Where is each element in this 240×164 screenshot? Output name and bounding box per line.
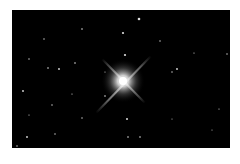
star-field-photo bbox=[12, 10, 230, 148]
bright-star bbox=[96, 56, 151, 113]
background-star bbox=[71, 93, 72, 94]
background-star bbox=[212, 130, 213, 131]
background-star bbox=[218, 108, 219, 109]
background-star bbox=[124, 54, 126, 56]
background-star bbox=[159, 40, 160, 41]
background-star bbox=[28, 114, 29, 115]
background-star bbox=[81, 117, 82, 118]
star-field-canvas bbox=[12, 10, 230, 148]
background-star bbox=[139, 136, 141, 138]
background-star bbox=[28, 58, 29, 59]
star-core bbox=[119, 77, 127, 85]
background-star bbox=[122, 32, 124, 34]
background-star bbox=[22, 90, 24, 92]
background-star bbox=[127, 136, 129, 138]
background-star bbox=[193, 52, 194, 53]
background-star bbox=[26, 136, 28, 138]
background-star bbox=[126, 118, 128, 120]
background-star bbox=[172, 119, 173, 120]
background-star bbox=[171, 71, 172, 72]
background-star bbox=[16, 145, 17, 146]
background-star bbox=[58, 68, 60, 70]
background-star bbox=[104, 95, 106, 97]
background-star bbox=[226, 53, 227, 54]
background-star bbox=[47, 67, 49, 69]
background-star bbox=[176, 68, 178, 70]
background-star bbox=[54, 133, 55, 134]
background-star bbox=[138, 18, 141, 21]
background-star bbox=[51, 104, 52, 105]
background-star bbox=[81, 28, 83, 30]
background-star bbox=[74, 62, 76, 64]
background-star bbox=[43, 38, 44, 39]
